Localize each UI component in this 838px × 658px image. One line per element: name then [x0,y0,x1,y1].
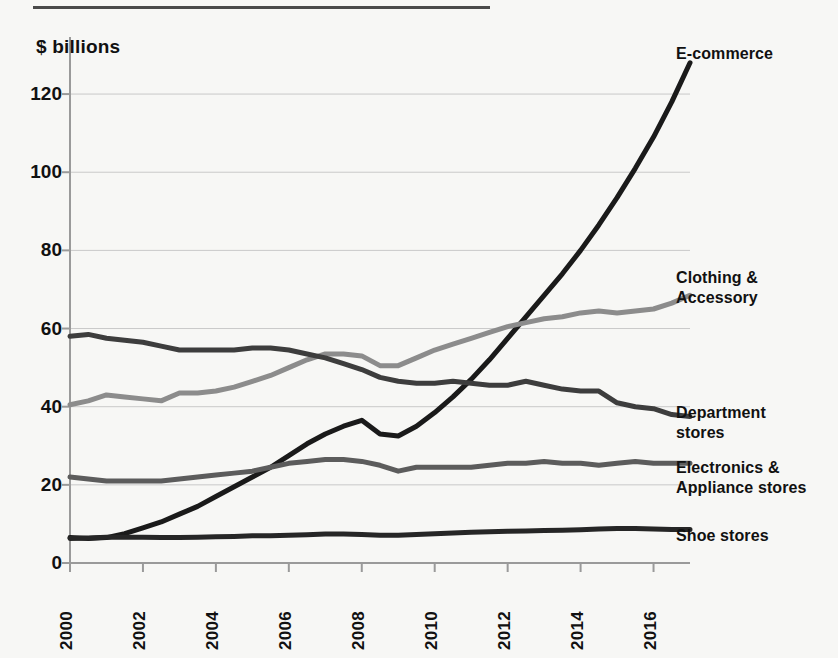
x-tick-label: 2006 [276,611,296,650]
x-tick-label: 2000 [57,611,77,650]
x-tick-label: 2004 [203,611,223,650]
series-label: E-commerce [676,44,773,64]
series-label: Clothing & Accessory [676,268,758,308]
line-chart: $ billions 020406080100120 2000200220042… [0,0,838,658]
x-tick-label: 2008 [349,611,369,650]
series-label: Department stores [676,403,766,443]
x-tick-label: 2012 [495,611,515,650]
x-tick-label: 2016 [641,611,661,650]
x-tick-label: 2010 [422,611,442,650]
x-axis-tick-labels: 200020022004200620082010201220142016 [0,0,838,658]
series-label: Electronics & Appliance stores [676,458,807,498]
x-tick-label: 2014 [568,611,588,650]
series-label: Shoe stores [676,526,769,546]
x-tick-label: 2002 [130,611,150,650]
